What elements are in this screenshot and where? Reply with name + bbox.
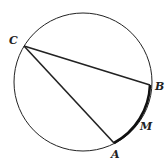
label-A: A — [110, 148, 120, 161]
label-B: B — [154, 80, 164, 93]
circle-diagram: C B M A — [0, 0, 166, 166]
label-M: M — [139, 120, 153, 133]
label-C: C — [9, 34, 18, 47]
